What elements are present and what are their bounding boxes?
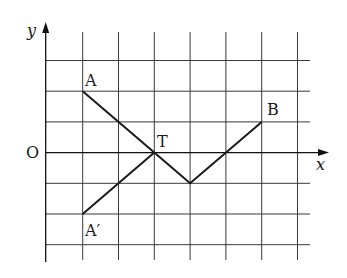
path-A-T-B: [83, 91, 262, 183]
vertical-grid-lines: [83, 32, 298, 260]
y-axis-arrow-icon: [42, 22, 49, 33]
x-axis-label: x: [316, 155, 325, 174]
point-label-A: A: [84, 71, 97, 90]
point-label-B: B: [267, 100, 279, 119]
y-axis-label: y: [26, 21, 37, 40]
point-label-T: T: [157, 132, 168, 151]
origin-label: O: [26, 143, 39, 162]
point-label-Aprime: A′: [84, 221, 101, 240]
coordinate-diagram: y x O A T B A′: [0, 0, 347, 278]
